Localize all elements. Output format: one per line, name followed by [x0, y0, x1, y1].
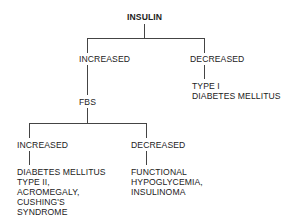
- connector: [146, 151, 147, 165]
- connector: [29, 123, 30, 138]
- connector: [204, 65, 205, 79]
- connector: [87, 38, 205, 39]
- connector: [87, 38, 88, 53]
- connector: [144, 24, 145, 38]
- node-insulin-decreased: DECREASED: [190, 54, 244, 64]
- node-type1-dm: TYPE I DIABETES MELLITUS: [192, 81, 281, 101]
- node-line: DIABETES MELLITUS: [17, 167, 106, 177]
- connector: [87, 65, 88, 95]
- connector: [29, 151, 30, 165]
- node-line: HYPOGLYCEMIA,: [131, 177, 203, 187]
- node-fbs-decreased: DECREASED: [131, 140, 185, 150]
- node-line: CUSHING'S: [17, 197, 106, 207]
- connector: [204, 38, 205, 53]
- node-insulin: INSULIN: [127, 12, 162, 22]
- connector: [29, 123, 147, 124]
- connector: [146, 123, 147, 138]
- connector: [87, 108, 88, 123]
- node-line: DIABETES MELLITUS: [192, 91, 281, 101]
- node-increased-causes: DIABETES MELLITUS TYPE II, ACROMEGALY, C…: [17, 167, 106, 217]
- node-fbs: FBS: [79, 97, 96, 107]
- node-line: SYNDROME: [17, 207, 106, 217]
- node-insulin-increased: INCREASED: [79, 54, 130, 64]
- node-line: TYPE I: [192, 81, 281, 91]
- node-fbs-increased: INCREASED: [17, 140, 68, 150]
- node-line: FUNCTIONAL: [131, 167, 203, 177]
- node-line: ACROMEGALY,: [17, 187, 106, 197]
- node-decreased-causes: FUNCTIONAL HYPOGLYCEMIA, INSULINOMA: [131, 167, 203, 197]
- node-line: INSULINOMA: [131, 187, 203, 197]
- node-line: TYPE II,: [17, 177, 106, 187]
